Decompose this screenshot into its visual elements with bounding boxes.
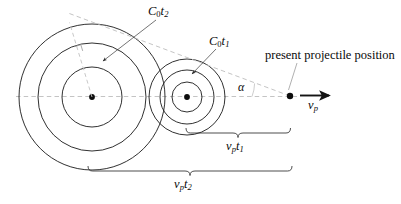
vpt1-brace bbox=[186, 128, 291, 138]
label-vp: vp bbox=[308, 99, 318, 113]
mach-cone-diagram bbox=[0, 0, 401, 204]
vpt1-base: v bbox=[226, 139, 232, 153]
vp-sub: p bbox=[314, 103, 318, 113]
vp-base: v bbox=[308, 98, 314, 112]
label-vpt1: vpt1 bbox=[226, 140, 244, 154]
c0t1-sub: 1 bbox=[225, 39, 229, 49]
newer-source-dot bbox=[184, 94, 190, 100]
vpt2-var: t bbox=[184, 177, 187, 191]
label-present-projectile-position: present projectile position bbox=[265, 49, 395, 62]
vpt2-base: v bbox=[174, 177, 180, 191]
vpt2-sub: 2 bbox=[188, 182, 192, 192]
label-c0t2: C0t2 bbox=[148, 5, 168, 19]
alpha-angle-arc bbox=[252, 83, 255, 96]
vpt1-var: t bbox=[236, 139, 239, 153]
projectile-dot bbox=[287, 93, 293, 99]
label-vpt2: vpt2 bbox=[174, 178, 192, 192]
vpt2-brace bbox=[88, 166, 292, 176]
c0t2-sub: 2 bbox=[164, 9, 168, 19]
vpt1-sub: 1 bbox=[240, 144, 244, 154]
c0t1-leader-line bbox=[192, 49, 216, 74]
newer-wavefront-group bbox=[149, 59, 225, 135]
mach-cone-line bbox=[68, 13, 290, 96]
label-alpha: α bbox=[238, 81, 244, 93]
label-c0t1: C0t1 bbox=[209, 35, 229, 49]
present-position-leader-line bbox=[289, 63, 298, 90]
perpendicular-radius-line bbox=[70, 23, 93, 98]
